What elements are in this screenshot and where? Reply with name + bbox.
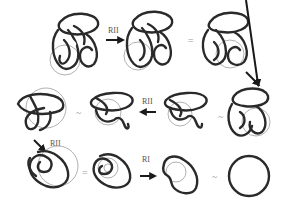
knot-diagram-6: [91, 93, 133, 129]
knot-diagram-10: [163, 157, 197, 194]
knot-diagram-3: [203, 13, 248, 68]
knot-diagram-2: [124, 12, 172, 70]
move-label-rii-1: RII: [108, 26, 119, 35]
arrow-down-right-icon-1: [246, 0, 258, 84]
unknot-diagram: [229, 156, 269, 196]
arrow-down-right-icon-2: [34, 140, 44, 150]
reidemeister-diagram: RII = ~ RII: [0, 0, 289, 207]
knot-diagram-9: [94, 154, 131, 187]
knot-diagram-7: [18, 88, 66, 130]
tilde-sign-3: ~: [212, 171, 218, 182]
knot-diagram-4: [229, 89, 270, 137]
tilde-sign-1: ~: [218, 111, 224, 122]
move-disk: [166, 162, 186, 182]
equals-sign-2: =: [82, 167, 88, 178]
knot-diagram-5: [165, 93, 207, 128]
knot-diagram-8: [28, 146, 78, 187]
move-label-rii-2: RII: [142, 97, 153, 106]
tilde-sign-2: ~: [76, 107, 82, 118]
equals-sign-1: =: [188, 35, 194, 46]
knot-diagram-1: [50, 14, 98, 75]
move-label-ri: RI: [142, 155, 150, 164]
